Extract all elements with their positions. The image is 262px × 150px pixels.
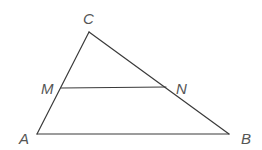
point-label-m: M bbox=[41, 80, 54, 97]
vertex-label-c: C bbox=[83, 10, 94, 27]
triangle-diagram: C M N A B bbox=[0, 0, 262, 150]
vertex-label-b: B bbox=[241, 130, 251, 147]
segment-cb bbox=[89, 32, 229, 134]
point-label-n: N bbox=[176, 80, 187, 97]
vertex-label-a: A bbox=[18, 130, 29, 147]
segment-mn bbox=[61, 87, 166, 88]
